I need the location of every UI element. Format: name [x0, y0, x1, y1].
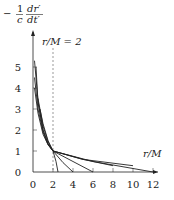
x-axis-arrow-icon: [153, 170, 158, 174]
x-tick-label: 10: [127, 179, 140, 190]
y-tick-label: 5: [15, 62, 21, 73]
ylabel-den: c: [17, 14, 23, 25]
series-curve-b: [35, 78, 74, 173]
ylabel-minus: −: [3, 8, 11, 19]
series-curve-e: [38, 99, 133, 166]
ylabel-num: 1: [17, 3, 23, 14]
x-tick-label: 12: [147, 179, 160, 190]
y-tick-label: 3: [15, 104, 21, 115]
x-tick-label: 0: [30, 179, 36, 190]
plot-area: 024681012012345: [15, 30, 160, 190]
y-tick-label: 2: [15, 125, 21, 136]
ylabel-dnum: dr′: [27, 3, 41, 14]
y-tick-label: 4: [15, 83, 21, 94]
x-tick-label: 4: [70, 179, 76, 190]
series-curve-f: [40, 109, 153, 172]
x-axis-label: r/M: [143, 148, 162, 159]
y-tick-label: 0: [15, 167, 21, 178]
series-curve-a: [35, 61, 59, 172]
series-curve-d: [36, 67, 113, 166]
y-axis-arrow-icon: [31, 30, 35, 36]
annotation-r-m-2: r/M = 2: [42, 36, 82, 47]
x-tick-label: 6: [90, 179, 96, 190]
chart: − 1 c dr′ dt′ 024681012012345 r/M = 2 r/…: [0, 0, 174, 200]
y-axis-label: − 1 c dr′ dt′: [3, 3, 43, 25]
y-tick-label: 1: [15, 146, 21, 157]
x-tick-label: 2: [50, 179, 56, 190]
x-tick-label: 8: [110, 179, 116, 190]
ylabel-dden: dt′: [27, 14, 40, 25]
